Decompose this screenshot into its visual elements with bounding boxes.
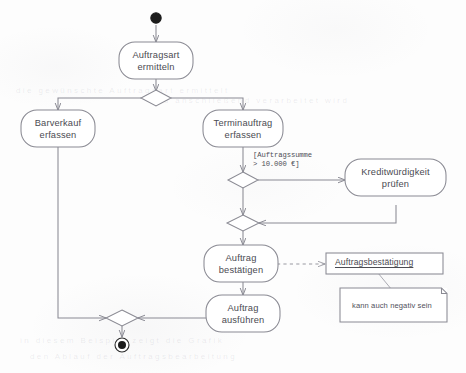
activity-ausfuehren[interactable] xyxy=(206,295,280,332)
edge-decision-to-terminauftrag xyxy=(171,98,243,110)
merge-kredit[interactable] xyxy=(227,215,259,231)
final-node xyxy=(118,341,126,349)
activity-terminauftrag[interactable] xyxy=(203,110,283,147)
uml-activity-diagram-canvas: die gewünschte Auftragsart ermittelt und… xyxy=(0,0,466,373)
edge-decision-to-barverkauf xyxy=(58,98,141,110)
merge-final[interactable] xyxy=(106,310,138,326)
activity-bestaetigen[interactable] xyxy=(204,245,278,282)
edge-barverkauf-to-merge-final xyxy=(58,147,106,318)
decision-auftragssumme[interactable] xyxy=(228,172,258,188)
decision-auftragsart[interactable] xyxy=(141,90,171,106)
activity-auftragsart[interactable] xyxy=(119,42,193,79)
note-negativ[interactable] xyxy=(340,288,447,322)
activity-barverkauf[interactable] xyxy=(21,110,95,147)
activity-kreditwuerdigkeit[interactable] xyxy=(345,159,446,196)
initial-node xyxy=(151,13,161,23)
note-anchor-line xyxy=(378,273,392,290)
edge-kredit-to-merge xyxy=(259,205,396,223)
object-node-auftragsbestaetigung[interactable] xyxy=(326,253,443,274)
diagram-vector-layer xyxy=(0,0,466,373)
